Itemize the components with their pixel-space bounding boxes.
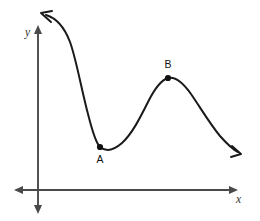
point-a-group: A	[96, 144, 103, 165]
y-axis-label: y	[24, 26, 31, 39]
y-axis-bottom-arrowhead	[34, 205, 42, 214]
x-axis-label: x	[235, 193, 242, 205]
point-a-marker	[97, 144, 103, 150]
point-b-group: B	[164, 58, 171, 81]
point-a-label: A	[96, 153, 103, 165]
y-axis-top-arrowhead	[34, 25, 42, 34]
x-axis-left-arrowhead	[14, 186, 23, 194]
x-axis: x	[14, 186, 242, 205]
point-b-label: B	[164, 58, 171, 70]
function-curve	[46, 15, 238, 152]
graph-figure: x y A B	[0, 0, 260, 221]
point-b-marker	[165, 75, 171, 81]
coordinate-graph: x y A B	[0, 0, 260, 221]
function-curve-group	[41, 11, 241, 157]
y-axis: y	[24, 25, 42, 214]
